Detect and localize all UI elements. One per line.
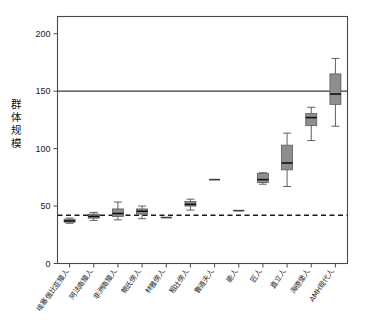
box-item <box>257 173 268 184</box>
y-tick-label: 100 <box>35 144 50 154</box>
y-tick-label: 200 <box>35 29 50 39</box>
box-iqr-rect <box>257 173 268 182</box>
y-axis-title: 群体规模 <box>11 98 22 149</box>
boxplot-figure: 050100150200 群体规模 埃塞俄比亚猿人阿法南猿人非洲南猿人鲍氏傍人林… <box>0 0 375 331</box>
y-axis-title-char: 模 <box>11 137 22 149</box>
y-axis-title-char: 群 <box>11 98 22 110</box>
boxplot-svg: 050100150200 群体规模 埃塞俄比亚猿人阿法南猿人非洲南猿人鲍氏傍人林… <box>0 0 375 331</box>
y-tick-label: 50 <box>40 201 50 211</box>
y-tick-label: 0 <box>45 259 50 269</box>
y-axis-title-char: 体 <box>11 111 22 123</box>
box-iqr-rect <box>282 145 293 170</box>
box-iqr-rect <box>330 74 341 104</box>
box-iqr-rect <box>306 114 317 126</box>
box-iqr-rect <box>112 209 123 216</box>
box-item <box>64 218 75 223</box>
y-axis-title-char: 规 <box>11 124 22 136</box>
y-tick-label: 150 <box>35 86 50 96</box>
